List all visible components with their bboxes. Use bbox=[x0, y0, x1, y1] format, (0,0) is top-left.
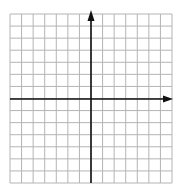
coordinate-grid bbox=[0, 0, 180, 190]
y-axis-arrow-icon bbox=[88, 10, 95, 21]
coordinate-plane bbox=[0, 0, 180, 190]
